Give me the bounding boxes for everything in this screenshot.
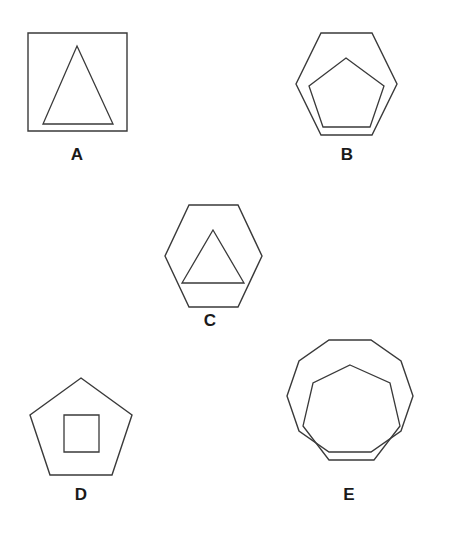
figure-group-a (28, 33, 127, 131)
figure-label-b: B (327, 145, 367, 165)
figure-label-e: E (329, 485, 369, 505)
figure-group-d (30, 378, 132, 475)
figure-c-inner-triangle (182, 230, 244, 283)
figure-label-a: A (57, 145, 97, 165)
figure-group-e (287, 340, 413, 460)
figure-e-inner-heptagon (303, 365, 400, 460)
figure-group-c (165, 205, 262, 307)
figure-a-inner-triangle (43, 46, 113, 124)
figure-d-inner-square (64, 415, 99, 452)
figure-c-outer-hexagon (165, 205, 262, 307)
figure-b-inner-pentagon (309, 58, 384, 127)
figure-sheet: A B C D E (0, 0, 451, 538)
figure-label-c: C (190, 311, 230, 331)
figure-e-outer-decagon (287, 340, 413, 452)
figure-canvas (0, 0, 451, 538)
figure-label-d: D (61, 485, 101, 505)
figure-group-b (296, 33, 397, 135)
figure-d-outer-pentagon (30, 378, 132, 475)
